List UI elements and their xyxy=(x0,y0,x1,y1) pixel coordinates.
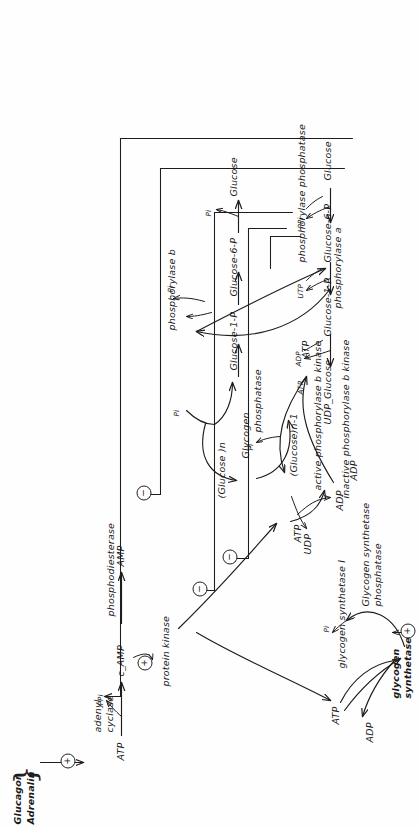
enzyme-glycogen-synthetase-phosphatase-line2: phosphatase xyxy=(372,543,383,606)
cofactor-utp-synthesis: UTP xyxy=(296,283,304,298)
metabolite-pi-synthetase: Pi xyxy=(322,625,330,632)
metabolite-glycogen-center: Glycogen xyxy=(240,412,251,458)
enzyme-glycogen-synthetase-phosphatase-line1: Glycogen synthetase xyxy=(360,502,371,606)
metabolite-camp: c_AMP xyxy=(115,645,126,676)
glycogen-cycle-linework xyxy=(0,0,419,828)
metabolite-ppi-cyclase: PPi xyxy=(96,694,104,705)
enzyme-glycogen-synthetase-i: glycogen synthetase I xyxy=(336,559,347,668)
enzyme-phosphorylase-b-kinase-phosphatase: phosphatase xyxy=(252,369,263,432)
metabolite-glucose-degradation: Glucose xyxy=(228,157,239,196)
camp-activation-node: + xyxy=(137,655,152,670)
metabolite-glucose-1-p-synthesis: Glucose-1-P xyxy=(322,277,333,336)
metabolite-adp-phosphorylase: ADP xyxy=(348,460,359,480)
metabolite-adp-synthetase: ADP xyxy=(364,722,375,742)
hormone-glucagon: Glucagon xyxy=(12,772,23,824)
enzyme-phosphodiesterase: phosphodiesterase xyxy=(105,522,116,616)
rotated-sheet: } Glucagon Adrenalin + adenyl cyclase AT… xyxy=(0,0,419,828)
metabolite-glucose-6-p-degradation: Glucose-6-P xyxy=(228,237,239,296)
metabolite-atp-synthetase: ATP xyxy=(330,706,341,724)
phosphorylase-inhibition-node-2: − xyxy=(192,581,207,596)
metabolite-atp-cyclase: ATP xyxy=(115,742,126,760)
metabolite-glucose-n-minus-1: (Glucose)n-1 xyxy=(288,413,299,476)
enzyme-phosphorylase-phosphatase: phosphorylase phosphatase xyxy=(296,123,307,262)
metabolite-udp: UDP xyxy=(302,533,313,554)
enzyme-protein-kinase: protein kinase xyxy=(160,615,171,686)
hormone-adrenalin: Adrenalin xyxy=(25,771,36,824)
enzyme-glycogen-synthetase-d-line1: glycogen xyxy=(390,648,401,698)
metabolite-udp-glucose-synthesis: UDP_Glucose xyxy=(322,359,333,424)
cofactor-adp-glucokinase: ADP xyxy=(294,351,302,366)
metabolite-glucose-synthesis: Glucose xyxy=(322,141,333,180)
phosphorylase-phosphatase-inhibition-node: − xyxy=(136,485,151,500)
metabolite-glucose-6-p-synthesis: Glucose-6-P xyxy=(322,203,333,262)
metabolite-amp: AMP xyxy=(115,545,126,566)
metabolite-pi-phosphorylase: Pi xyxy=(166,285,174,292)
metabolite-pi-degradation: Pi xyxy=(204,209,212,216)
enzyme-phosphorylase-a: phosphorylase a xyxy=(332,227,343,308)
enzyme-adenyl-cyclase-line2: cyclase xyxy=(104,695,115,732)
metabolite-glucose-n: (Glucose )n xyxy=(216,441,227,498)
synthetase-activation-node: + xyxy=(400,623,415,638)
metabolite-glucose-1-p-degradation: Glucose-1-P xyxy=(228,311,239,370)
hormone-activation-node: + xyxy=(60,753,75,768)
metabolite-pi-glycogen: Pi xyxy=(172,409,180,416)
diagram-canvas: } Glucagon Adrenalin + adenyl cyclase AT… xyxy=(0,0,419,828)
cofactor-atp-glucokinase: ATP xyxy=(296,380,304,394)
